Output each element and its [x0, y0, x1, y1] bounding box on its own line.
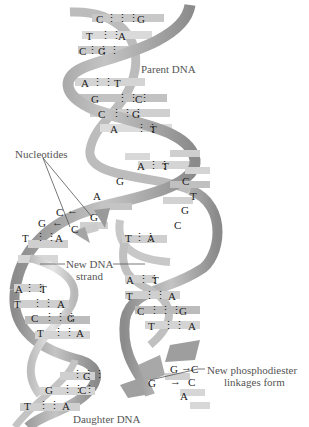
svg-text:←: ← — [52, 216, 63, 228]
svg-text:⋮⋮: ⋮⋮ — [163, 319, 185, 331]
svg-text:T: T — [22, 232, 29, 244]
svg-text:⋮⋮⋮: ⋮⋮⋮ — [106, 12, 139, 24]
svg-text:A: A — [118, 30, 126, 42]
svg-text:C: C — [98, 108, 105, 120]
svg-text:⋮⋮: ⋮⋮ — [32, 297, 54, 309]
svg-text:→: → — [170, 375, 181, 387]
svg-text:T: T — [114, 77, 121, 89]
svg-text:G: G — [90, 211, 98, 223]
svg-text:T: T — [40, 283, 47, 295]
svg-text:T: T — [152, 274, 159, 286]
svg-text:⋮⋮⋮: ⋮⋮⋮ — [117, 92, 150, 104]
svg-text:⋮⋮: ⋮⋮ — [92, 76, 114, 88]
svg-text:T: T — [14, 298, 21, 310]
svg-text:C: C — [174, 219, 181, 231]
svg-text:G: G — [179, 305, 187, 317]
dna-replication-diagram: C⋮⋮⋮G T⋮⋮A C⋮⋮⋮G A⋮⋮T G⋮⋮⋮C C⋮⋮⋮G A⋮⋮T A… — [0, 0, 309, 427]
daughter-dna-label: Daughter DNA — [73, 413, 141, 425]
svg-text:⋮⋮⋮: ⋮⋮⋮ — [149, 304, 182, 316]
svg-text:C: C — [188, 376, 195, 388]
svg-text:G: G — [170, 363, 178, 375]
svg-text:T: T — [190, 190, 197, 202]
nucleotides-label: Nucleotides — [15, 148, 68, 160]
svg-text:T: T — [125, 232, 132, 244]
svg-text:G: G — [148, 377, 156, 389]
svg-text:G: G — [132, 108, 140, 120]
svg-text:A: A — [147, 232, 155, 244]
svg-text:C: C — [182, 175, 189, 187]
phosphodiester-label-line2: linkages form — [224, 376, 285, 388]
svg-text:T: T — [162, 160, 169, 172]
new-dna-strand-label-line2: strand — [76, 270, 103, 282]
svg-text:G: G — [67, 312, 75, 324]
svg-text:T: T — [24, 400, 31, 412]
svg-text:G: G — [137, 13, 145, 25]
svg-text:G: G — [181, 204, 189, 216]
svg-text:C: C — [83, 370, 90, 382]
svg-text:G: G — [45, 384, 53, 396]
svg-text:G: G — [91, 93, 99, 105]
svg-text:C: C — [71, 223, 78, 235]
svg-text:C: C — [79, 45, 86, 57]
svg-text:G: G — [98, 45, 106, 57]
svg-text:T: T — [37, 327, 44, 339]
svg-text:A: A — [76, 327, 84, 339]
svg-text:A: A — [62, 400, 70, 412]
svg-text:A: A — [81, 77, 89, 89]
new-dna-strand-label-line1: New DNA — [66, 258, 113, 270]
svg-text:C: C — [135, 93, 142, 105]
svg-text:A: A — [57, 298, 65, 310]
svg-text:⋮⋮: ⋮⋮ — [144, 289, 166, 301]
svg-text:T: T — [126, 290, 133, 302]
svg-text:C: C — [96, 13, 103, 25]
svg-text:A: A — [126, 274, 134, 286]
svg-text:C: C — [191, 363, 198, 375]
svg-text:G: G — [38, 217, 46, 229]
svg-text:⋮⋮: ⋮⋮ — [38, 399, 60, 411]
svg-text:A: A — [110, 123, 118, 135]
svg-text:A: A — [55, 232, 63, 244]
svg-text:←: ← — [67, 204, 78, 216]
parent-dna-label: Parent DNA — [141, 63, 196, 75]
svg-text:C: C — [31, 312, 38, 324]
svg-text:T: T — [148, 320, 155, 332]
svg-text:C: C — [79, 384, 86, 396]
svg-text:C: C — [137, 305, 144, 317]
svg-text:A: A — [168, 290, 176, 302]
svg-text:T: T — [86, 30, 93, 42]
svg-text:A: A — [188, 320, 196, 332]
svg-text:A: A — [137, 160, 145, 172]
svg-text:G: G — [116, 175, 124, 187]
svg-text:A: A — [180, 390, 188, 402]
svg-text:⋮⋮: ⋮⋮ — [53, 326, 75, 338]
phosphodiester-label-line1: New phosphodiester — [207, 364, 297, 376]
svg-text:A: A — [93, 190, 101, 202]
svg-text:⋮⋮: ⋮⋮ — [35, 231, 57, 243]
svg-text:A: A — [15, 283, 23, 295]
svg-text:T: T — [150, 123, 157, 135]
